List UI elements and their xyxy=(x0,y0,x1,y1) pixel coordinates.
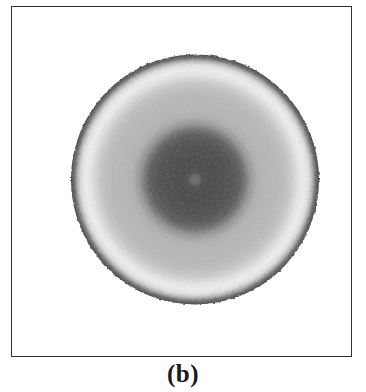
figure-panel: (b) xyxy=(0,0,366,392)
intensity-heatmap-canvas xyxy=(70,54,320,305)
panel-caption: (b) xyxy=(0,359,366,389)
intensity-heatmap xyxy=(70,54,320,305)
panel-frame xyxy=(11,6,352,357)
center-speckle xyxy=(189,173,201,185)
